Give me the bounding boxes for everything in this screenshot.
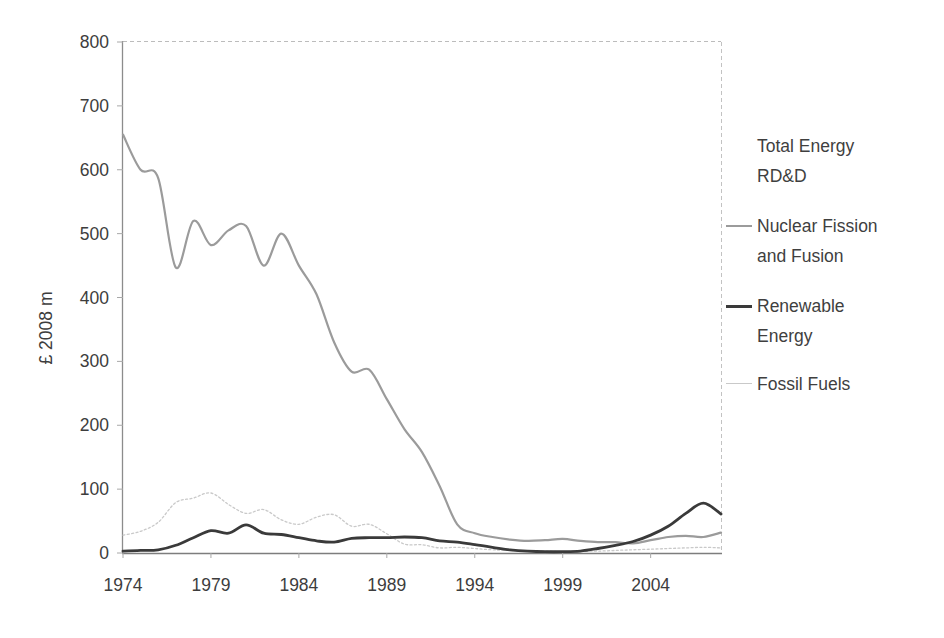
legend-entry-renewable-energy: RenewableEnergy (724, 292, 927, 351)
x-tick-label: 1994 (455, 575, 494, 595)
y-tick-label: 400 (80, 288, 109, 308)
energy-rdd-chart-figure: 0100200300400500600700800197419791984198… (0, 0, 944, 638)
nuclear-fission-and-fusion-line (123, 135, 721, 544)
legend-label-line: Renewable (757, 292, 927, 322)
y-tick-label: 600 (80, 160, 109, 180)
y-tick-label: 200 (80, 415, 109, 435)
legend-entry-total-energy-rd-d: Total EnergyRD&D (724, 132, 927, 191)
y-tick-label: 100 (80, 479, 109, 499)
x-tick-label: 1999 (543, 575, 582, 595)
y-tick-label: 700 (80, 96, 109, 116)
x-tick-label: 1984 (279, 575, 318, 595)
legend-label-line: and Fusion (757, 242, 927, 272)
x-tick-label: 1979 (191, 575, 230, 595)
y-tick-label: 0 (99, 543, 109, 563)
y-axis-title: £ 2008 m (36, 292, 56, 365)
legend-entry-nuclear-fission-and-fusion: Nuclear Fissionand Fusion (724, 212, 927, 271)
x-tick-label: 2004 (631, 575, 670, 595)
legend-label-line: Nuclear Fission (757, 212, 927, 242)
y-tick-label: 500 (80, 224, 109, 244)
x-tick-label: 1974 (104, 575, 143, 595)
legend-entry-fossil-fuels: Fossil Fuels (724, 370, 927, 400)
y-tick-label: 300 (80, 351, 109, 371)
legend-label-line: RD&D (757, 162, 927, 192)
legend-label-line: Energy (757, 322, 927, 352)
legend-label-line: Total Energy (757, 132, 927, 162)
legend-line-swatch (726, 225, 752, 227)
legend-line-swatch (726, 305, 752, 308)
x-tick-label: 1989 (367, 575, 406, 595)
y-tick-label: 800 (80, 32, 109, 52)
legend-line-swatch (726, 383, 752, 384)
legend-label-line: Fossil Fuels (757, 370, 927, 400)
